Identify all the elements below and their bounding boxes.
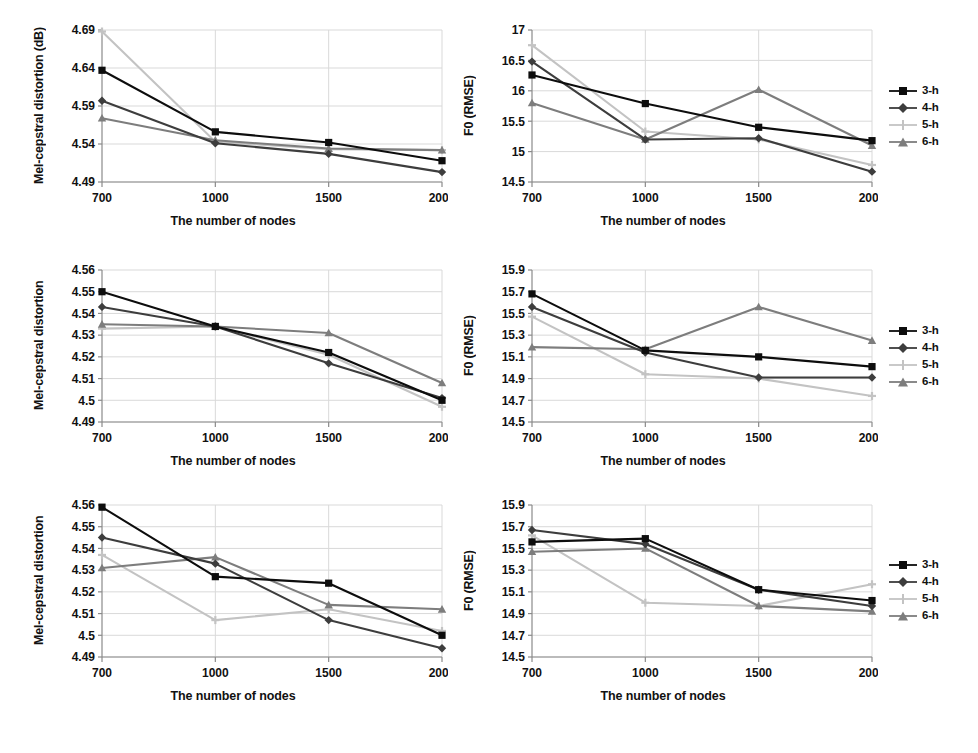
legend-item[interactable]: 6-h	[888, 133, 978, 150]
svg-text:15.7: 15.7	[502, 285, 526, 299]
svg-text:14.5: 14.5	[502, 175, 526, 189]
legend-symbol-6h	[888, 376, 918, 388]
svg-text:4.55: 4.55	[72, 285, 96, 299]
svg-text:700: 700	[522, 191, 542, 205]
svg-text:2000: 2000	[859, 431, 878, 445]
svg-text:16.5: 16.5	[502, 54, 526, 68]
y-axis-label: Mel-cepstral distortion	[30, 258, 48, 433]
svg-text:4.52: 4.52	[72, 350, 96, 364]
svg-text:15.1: 15.1	[502, 585, 526, 599]
chart-panel-middle-left: Mel-cepstral distortion 4.494.54.514.524…	[28, 258, 448, 494]
svg-text:700: 700	[92, 666, 112, 680]
legend-symbol-5h	[888, 593, 918, 605]
svg-text:1000: 1000	[202, 191, 229, 205]
legend-label: 4-h	[922, 102, 939, 114]
legend-symbol-4h	[888, 102, 918, 114]
legend-item[interactable]: 5-h	[888, 590, 978, 607]
legend-item[interactable]: 6-h	[888, 373, 978, 390]
x-axis-label: The number of nodes	[68, 214, 398, 228]
legend-label: 6-h	[922, 136, 939, 148]
legend-label: 4-h	[922, 342, 939, 354]
svg-text:1500: 1500	[315, 431, 342, 445]
svg-text:15.1: 15.1	[502, 350, 526, 364]
svg-text:15.9: 15.9	[502, 498, 526, 512]
chart-panel-bottom-right: F0 (RMSE) 14.514.714.915.115.315.515.715…	[458, 493, 878, 729]
legend-item[interactable]: 3-h	[888, 322, 978, 339]
legend-symbol-5h	[888, 119, 918, 131]
legend-label: 5-h	[922, 593, 939, 605]
legend-item[interactable]: 5-h	[888, 356, 978, 373]
legend-symbol-4h	[888, 342, 918, 354]
plot-area-top-left: 4.494.544.594.644.69700100015002000	[50, 18, 448, 218]
legend-label: 6-h	[922, 376, 939, 388]
legend-label: 3-h	[922, 325, 939, 337]
legend-label: 6-h	[922, 610, 939, 622]
legend-item[interactable]: 4-h	[888, 339, 978, 356]
chart-panel-bottom-left: Mel-cepstral distortion 4.494.54.514.524…	[28, 493, 448, 729]
svg-text:4.53: 4.53	[72, 328, 96, 342]
legend-symbol-5h	[888, 359, 918, 371]
y-axis-label: Mel-cepstral distortion (dB)	[30, 18, 48, 193]
x-axis-label: The number of nodes	[498, 454, 828, 468]
legend-label: 5-h	[922, 359, 939, 371]
x-axis-label: The number of nodes	[498, 214, 828, 228]
svg-text:4.51: 4.51	[72, 607, 96, 621]
legend-item[interactable]: 3-h	[888, 556, 978, 573]
svg-text:4.49: 4.49	[72, 415, 96, 429]
svg-text:1500: 1500	[745, 666, 772, 680]
svg-text:15.9: 15.9	[502, 263, 526, 277]
svg-text:2000: 2000	[429, 431, 448, 445]
svg-text:4.54: 4.54	[72, 542, 96, 556]
legend-top: 3-h 4-h 5-h 6-h	[888, 82, 978, 150]
legend-symbol-3h	[888, 325, 918, 337]
chart-panel-middle-right: F0 (RMSE) 14.514.714.915.115.315.515.715…	[458, 258, 878, 494]
svg-text:14.9: 14.9	[502, 372, 526, 386]
line-chart-svg: 4.494.54.514.524.534.544.554.56700100015…	[50, 493, 448, 689]
legend-item[interactable]: 4-h	[888, 99, 978, 116]
svg-text:4.49: 4.49	[72, 650, 96, 664]
legend-item[interactable]: 4-h	[888, 573, 978, 590]
svg-text:14.7: 14.7	[502, 629, 526, 643]
svg-text:4.56: 4.56	[72, 263, 96, 277]
plot-area-bottom-left: 4.494.54.514.524.534.544.554.56700100015…	[50, 493, 448, 693]
legend-label: 3-h	[922, 559, 939, 571]
legend-label: 5-h	[922, 119, 939, 131]
legend-item[interactable]: 5-h	[888, 116, 978, 133]
svg-text:4.52: 4.52	[72, 585, 96, 599]
legend-symbol-3h	[888, 85, 918, 97]
y-axis-label: Mel-cepstral distortion	[30, 493, 48, 668]
x-axis-label: The number of nodes	[68, 689, 398, 703]
y-axis-label: F0 (RMSE)	[460, 18, 478, 193]
svg-text:4.51: 4.51	[72, 372, 96, 386]
svg-text:15.5: 15.5	[502, 115, 526, 129]
svg-text:14.9: 14.9	[502, 607, 526, 621]
svg-text:700: 700	[522, 666, 542, 680]
line-chart-svg: 14.514.714.915.115.315.515.715.970010001…	[480, 258, 878, 454]
svg-text:1000: 1000	[632, 431, 659, 445]
svg-text:4.49: 4.49	[72, 175, 96, 189]
legend-symbol-6h	[888, 136, 918, 148]
svg-text:15.5: 15.5	[502, 542, 526, 556]
legend-symbol-3h	[888, 559, 918, 571]
legend-item[interactable]: 3-h	[888, 82, 978, 99]
svg-text:4.55: 4.55	[72, 520, 96, 534]
svg-text:1500: 1500	[745, 431, 772, 445]
chart-panel-top-left: Mel-cepstral distortion (dB) 4.494.544.5…	[28, 18, 448, 254]
svg-text:1500: 1500	[745, 191, 772, 205]
legend-item[interactable]: 6-h	[888, 607, 978, 624]
svg-text:2000: 2000	[429, 191, 448, 205]
y-axis-label: F0 (RMSE)	[460, 258, 478, 433]
line-chart-svg: 14.514.714.915.115.315.515.715.970010001…	[480, 493, 878, 689]
svg-text:4.64: 4.64	[72, 61, 96, 75]
chart-panel-top-right: F0 (RMSE) 14.51515.51616.517700100015002…	[458, 18, 878, 254]
svg-text:1000: 1000	[202, 666, 229, 680]
svg-text:15.5: 15.5	[502, 307, 526, 321]
svg-text:1000: 1000	[632, 666, 659, 680]
svg-text:4.5: 4.5	[78, 629, 95, 643]
svg-text:15: 15	[512, 145, 526, 159]
line-chart-svg: 4.494.54.514.524.534.544.554.56700100015…	[50, 258, 448, 454]
svg-text:700: 700	[92, 191, 112, 205]
legend-label: 3-h	[922, 85, 939, 97]
svg-text:4.5: 4.5	[78, 394, 95, 408]
x-axis-label: The number of nodes	[68, 454, 398, 468]
